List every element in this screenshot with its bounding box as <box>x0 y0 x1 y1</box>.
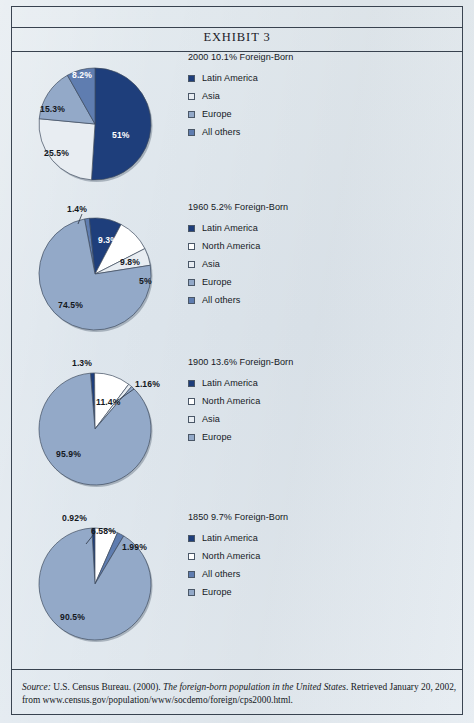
legend-swatch-icon <box>188 535 195 542</box>
legend-item-label: All others <box>202 127 240 137</box>
pie-slice-percent-label: 9.8% <box>120 257 140 267</box>
pie-chart-block-1900: 1.3%11.4%1.16%95.9% 1900 13.6% Foreign-B… <box>12 357 462 512</box>
legend-swatch-icon <box>188 434 195 441</box>
legend-item-label: Latin America <box>202 223 258 233</box>
legend-title-1850: 1850 9.7% Foreign-Born <box>188 512 438 522</box>
pie-slice-percent-label: 95.9% <box>56 449 81 459</box>
pie-chart-block-1850: 0.92%6.58%1.99%90.5% 1850 9.7% Foreign-B… <box>12 512 462 668</box>
legend-item-label: Latin America <box>202 378 258 388</box>
pie-slice-percent-label: 1.3% <box>72 358 92 368</box>
legend-swatch-icon <box>188 129 195 136</box>
legend-swatch-icon <box>188 243 195 250</box>
legend-swatch-icon <box>188 553 195 560</box>
source-title: The foreign-born population in the Unite… <box>163 682 346 692</box>
legend-item[interactable]: Europe <box>188 584 438 600</box>
pie-svg <box>34 52 174 204</box>
legend-item-label: Europe <box>202 587 232 597</box>
legend-item-label: All others <box>202 295 240 305</box>
legend-item[interactable]: North America <box>188 393 438 409</box>
legend-item[interactable]: Latin America <box>188 70 438 86</box>
legend-item-label: Asia <box>202 414 220 424</box>
legend-item-label: Europe <box>202 432 232 442</box>
legend-item[interactable]: All others <box>188 124 438 140</box>
legend-rows-1900: Latin AmericaNorth AmericaAsiaEurope <box>188 375 438 445</box>
legend-swatch-icon <box>188 225 195 232</box>
legend-item[interactable]: Europe <box>188 429 438 445</box>
pie-chart-2000: 51%25.5%15.3%8.2% <box>34 52 174 204</box>
source-label: Source: <box>22 682 51 692</box>
legend-item-label: Europe <box>202 109 232 119</box>
exhibit-title: EXHIBIT 3 <box>0 30 474 45</box>
pie-slice-percent-label: 25.5% <box>44 148 69 158</box>
legend-1960: 1960 5.2% Foreign-Born Latin AmericaNort… <box>188 202 438 310</box>
pie-slice-percent-label: 6.58% <box>91 526 116 536</box>
legend-item[interactable]: Asia <box>188 256 438 272</box>
pie-chart-1960: 9.3%9.8%5%74.5%1.4% <box>34 202 174 354</box>
pie-slice-percent-label: 1.99% <box>122 542 147 552</box>
legend-swatch-icon <box>188 279 195 286</box>
frame-rule-bottom <box>11 714 463 715</box>
legend-title-2000: 2000 10.1% Foreign-Born <box>188 52 438 62</box>
legend-item[interactable]: Latin America <box>188 375 438 391</box>
legend-swatch-icon <box>188 93 195 100</box>
legend-item[interactable]: Europe <box>188 274 438 290</box>
legend-item[interactable]: All others <box>188 292 438 308</box>
pie-slice[interactable] <box>91 68 151 180</box>
legend-item[interactable]: Latin America <box>188 530 438 546</box>
source-text-1: U.S. Census Bureau. (2000). <box>51 682 163 692</box>
legend-2000: 2000 10.1% Foreign-Born Latin AmericaAsi… <box>188 52 438 142</box>
legend-item-label: Latin America <box>202 533 258 543</box>
source-rule-top <box>11 669 463 670</box>
pie-chart-1850: 0.92%6.58%1.99%90.5% <box>34 512 174 664</box>
legend-item[interactable]: Asia <box>188 88 438 104</box>
legend-rows-1960: Latin AmericaNorth AmericaAsiaEuropeAll … <box>188 220 438 308</box>
legend-swatch-icon <box>188 571 195 578</box>
legend-swatch-icon <box>188 416 195 423</box>
pie-slice-percent-label: 9.3% <box>98 235 118 245</box>
legend-1900: 1900 13.6% Foreign-Born Latin AmericaNor… <box>188 357 438 447</box>
legend-item[interactable]: North America <box>188 238 438 254</box>
legend-item-label: North America <box>202 396 260 406</box>
pie-chart-block-2000: 51%25.5%15.3%8.2% 2000 10.1% Foreign-Bor… <box>12 52 462 202</box>
legend-item[interactable]: Asia <box>188 411 438 427</box>
legend-item-label: All others <box>202 569 240 579</box>
legend-title-1900: 1900 13.6% Foreign-Born <box>188 357 438 367</box>
pie-slice-percent-label: 51% <box>112 130 130 140</box>
legend-swatch-icon <box>188 398 195 405</box>
legend-swatch-icon <box>188 75 195 82</box>
charts-container: 51%25.5%15.3%8.2% 2000 10.1% Foreign-Bor… <box>12 52 462 668</box>
source-citation: Source: U.S. Census Bureau. (2000). The … <box>22 681 458 707</box>
legend-item-label: North America <box>202 241 260 251</box>
pie-slice-percent-label: 90.5% <box>60 612 85 622</box>
legend-item[interactable]: North America <box>188 548 438 564</box>
pie-slice-percent-label: 0.92% <box>62 513 87 523</box>
pie-slice-percent-label: 11.4% <box>96 397 120 407</box>
pie-chart-block-1960: 9.3%9.8%5%74.5%1.4% 1960 5.2% Foreign-Bo… <box>12 202 462 357</box>
pie-slice-percent-label: 5% <box>139 276 152 286</box>
legend-1850: 1850 9.7% Foreign-Born Latin AmericaNort… <box>188 512 438 602</box>
legend-swatch-icon <box>188 589 195 596</box>
pie-slice-percent-label: 15.3% <box>40 104 65 114</box>
legend-item-label: Latin America <box>202 73 258 83</box>
pie-slice-percent-label: 74.5% <box>58 300 83 310</box>
legend-item[interactable]: All others <box>188 566 438 582</box>
legend-item-label: North America <box>202 551 260 561</box>
pie-chart-1900: 1.3%11.4%1.16%95.9% <box>34 357 174 509</box>
legend-item[interactable]: Europe <box>188 106 438 122</box>
legend-item-label: Asia <box>202 259 220 269</box>
legend-item-label: Europe <box>202 277 232 287</box>
legend-swatch-icon <box>188 297 195 304</box>
pie-slice-percent-label: 1.4% <box>67 204 87 214</box>
legend-item[interactable]: Latin America <box>188 220 438 236</box>
frame-rule-top <box>11 6 463 7</box>
legend-swatch-icon <box>188 261 195 268</box>
legend-rows-1850: Latin AmericaNorth AmericaAll othersEuro… <box>188 530 438 600</box>
legend-rows-2000: Latin AmericaAsiaEuropeAll others <box>188 70 438 140</box>
pie-slice-percent-label: 8.2% <box>72 70 92 80</box>
pie-svg <box>34 202 174 354</box>
legend-swatch-icon <box>188 111 195 118</box>
legend-item-label: Asia <box>202 91 220 101</box>
pie-slice-percent-label: 1.16% <box>135 379 160 389</box>
legend-title-1960: 1960 5.2% Foreign-Born <box>188 202 438 212</box>
legend-swatch-icon <box>188 380 195 387</box>
